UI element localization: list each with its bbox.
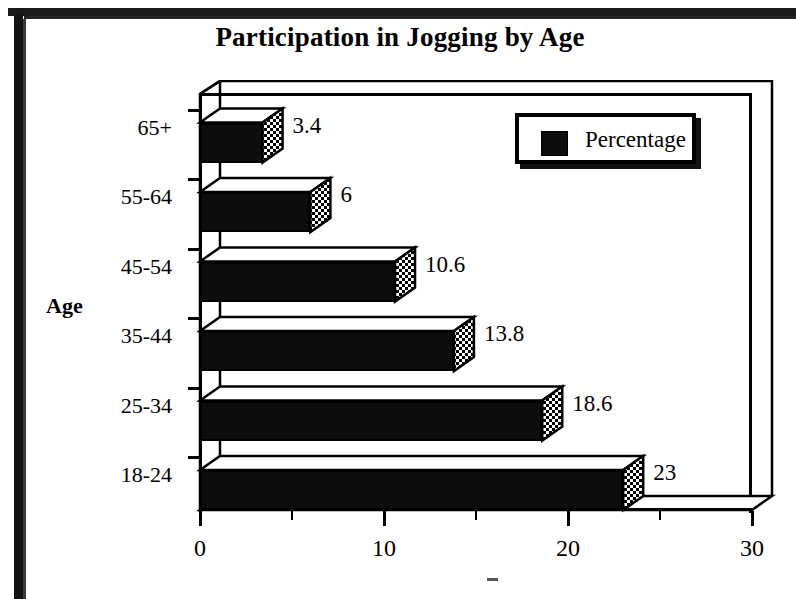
chart-legend[interactable]: Percentage — [515, 113, 701, 169]
legend-label-percentage: Percentage — [585, 127, 686, 153]
chart-title: Participation in Jogging by Age — [120, 22, 680, 53]
y-axis-label-65+: 65+ — [138, 115, 172, 141]
legend-swatch-percentage — [541, 131, 568, 156]
page-frame-left-edge — [14, 14, 23, 599]
page-frame-top-edge — [8, 8, 796, 16]
x-axis-label-30: 30 — [722, 535, 782, 562]
x-axis-label-10: 10 — [354, 535, 414, 562]
y-axis-label-25-34: 25-34 — [121, 393, 172, 419]
chart-page: Participation in Jogging by Age Age 65+5… — [0, 0, 796, 599]
x-axis-label-20: 20 — [538, 535, 598, 562]
legend-box: Percentage — [515, 113, 696, 164]
bar-value-label-18-24: 23 — [653, 460, 676, 486]
page-frame-left-inner — [23, 19, 26, 599]
x-axis-label-0: 0 — [170, 535, 230, 562]
y-axis-label-45-54: 45-54 — [121, 254, 172, 280]
page-frame-top-inner — [24, 16, 796, 19]
y-axis-label-35-44: 35-44 — [121, 323, 172, 349]
y-axis-label-18-24: 18-24 — [121, 462, 172, 488]
y-axis-title: Age — [46, 293, 83, 319]
scan-artifact — [487, 578, 498, 581]
y-axis-label-55-64: 55-64 — [121, 184, 172, 210]
